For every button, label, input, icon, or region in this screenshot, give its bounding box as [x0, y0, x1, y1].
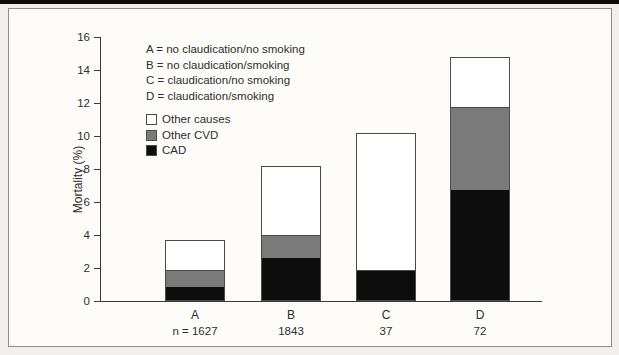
bar-A-segment-cad [166, 287, 224, 301]
y-tick-label-4: 4 [66, 228, 90, 242]
bar-C-segment-other-causes [357, 134, 415, 271]
bar-A-segment-other-cvd [166, 271, 224, 288]
n-label-A: n = 1627 [155, 325, 235, 337]
y-tick-label-12: 12 [66, 96, 90, 110]
y-tick-mark-14 [94, 70, 100, 71]
bar-D-segment-other-causes [451, 58, 509, 108]
legend-label: CAD [162, 143, 186, 159]
bar-B-segment-other-causes [262, 167, 320, 236]
y-tick-label-16: 16 [66, 30, 90, 44]
category-label-D: D [450, 308, 510, 322]
legend-label: Other causes [162, 112, 230, 128]
bar-D-segment-cad [451, 190, 509, 301]
definition-line-1: B = no claudication/smoking [146, 58, 305, 74]
y-tick-mark-2 [94, 268, 100, 269]
x-axis-line [100, 301, 542, 302]
legend-swatch-other-cvd-icon [146, 130, 157, 141]
bar-B-segment-other-cvd [262, 236, 320, 257]
page-rule-band [0, 0, 619, 4]
definition-line-2: C = claudication/no smoking [146, 73, 305, 89]
category-label-A: A [165, 308, 225, 322]
legend-row-other-causes: Other causes [146, 112, 230, 128]
y-tick-mark-16 [94, 37, 100, 38]
bar-C-segment-cad [357, 271, 415, 301]
definition-line-3: D = claudication/smoking [146, 89, 305, 105]
y-tick-mark-0 [94, 301, 100, 302]
y-tick-mark-10 [94, 136, 100, 137]
bar-C [356, 133, 416, 301]
bar-B-segment-cad [262, 258, 320, 301]
definition-line-0: A = no claudication/no smoking [146, 42, 305, 58]
legend-row-cad: CAD [146, 143, 230, 159]
n-label-D: 72 [440, 325, 520, 337]
n-label-C: 37 [346, 325, 426, 337]
bar-D-segment-other-cvd [451, 108, 509, 191]
category-label-B: B [261, 308, 321, 322]
y-tick-mark-12 [94, 103, 100, 104]
y-tick-label-2: 2 [66, 261, 90, 275]
figure: Mortality (%) A = no claudication/no smo… [0, 0, 619, 355]
y-tick-label-0: 0 [66, 294, 90, 308]
legend-swatch-cad-icon [146, 145, 157, 156]
bar-B [261, 166, 321, 301]
y-axis-line [100, 37, 101, 301]
n-label-B: 1843 [251, 325, 331, 337]
legend: Other causesOther CVDCAD [146, 112, 230, 159]
y-tick-label-14: 14 [66, 63, 90, 77]
group-definitions: A = no claudication/no smokingB = no cla… [146, 42, 305, 104]
legend-label: Other CVD [162, 128, 218, 144]
y-tick-label-6: 6 [66, 195, 90, 209]
legend-swatch-other-causes-icon [146, 114, 157, 125]
y-tick-mark-4 [94, 235, 100, 236]
y-tick-label-8: 8 [66, 162, 90, 176]
legend-row-other-cvd: Other CVD [146, 128, 230, 144]
y-tick-mark-8 [94, 169, 100, 170]
y-tick-label-10: 10 [66, 129, 90, 143]
category-label-C: C [356, 308, 416, 322]
bar-A-segment-other-causes [166, 241, 224, 271]
bar-A [165, 240, 225, 301]
bar-D [450, 57, 510, 301]
y-tick-mark-6 [94, 202, 100, 203]
